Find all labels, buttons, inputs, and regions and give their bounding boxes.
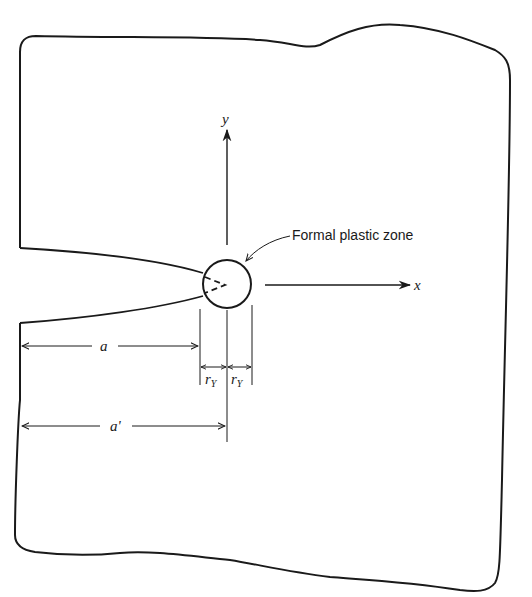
crack-plastic-zone-diagram: y x Formal plastic zone a rY rY a': [0, 0, 532, 597]
dimension-a-label: a: [100, 338, 108, 354]
specimen-outline: [15, 24, 510, 591]
dimension-ry-right-label: rY: [231, 371, 244, 389]
y-axis-label: y: [220, 111, 229, 127]
plastic-zone-circle: [203, 260, 251, 308]
x-axis-label: x: [413, 277, 421, 293]
plastic-zone-leader: [246, 236, 290, 261]
dimension-a-prime-label: a': [110, 418, 122, 434]
dimension-ry-left-label: rY: [205, 371, 218, 389]
plastic-zone-label: Formal plastic zone: [292, 227, 414, 243]
crack-upper-face: [20, 248, 203, 273]
effective-crack-tip-dashed: [205, 277, 225, 293]
crack-lower-face: [20, 296, 203, 323]
